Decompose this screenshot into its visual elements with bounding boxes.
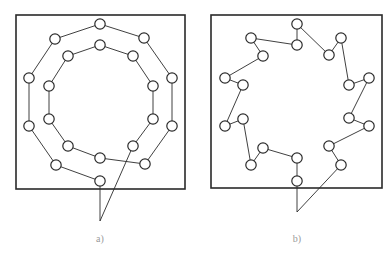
node-circle bbox=[148, 114, 158, 124]
node-circle bbox=[292, 176, 302, 186]
panel-b-caption: b) bbox=[282, 233, 312, 244]
node-circle bbox=[167, 73, 177, 83]
node-circle bbox=[24, 121, 34, 131]
figure-canvas bbox=[0, 0, 392, 256]
node-circle bbox=[220, 73, 230, 83]
node-circle bbox=[246, 33, 256, 43]
node-circle bbox=[24, 73, 34, 83]
node-circle bbox=[51, 160, 61, 170]
node-circle bbox=[139, 33, 149, 43]
node-circle bbox=[50, 34, 60, 44]
node-circle bbox=[364, 73, 374, 83]
node-circle bbox=[258, 143, 268, 153]
node-circle bbox=[344, 113, 354, 123]
node-circle bbox=[95, 176, 105, 186]
node-circle bbox=[238, 80, 248, 90]
panel-a-drawing bbox=[16, 15, 185, 221]
node-circle bbox=[292, 19, 302, 29]
node-circle bbox=[128, 51, 138, 61]
node-circle bbox=[140, 159, 150, 169]
node-circle bbox=[44, 81, 54, 91]
node-circle bbox=[63, 51, 73, 61]
node-circle bbox=[324, 141, 334, 151]
node-circle bbox=[95, 153, 105, 163]
node-circle bbox=[44, 114, 54, 124]
node-circle bbox=[364, 121, 374, 131]
node-circle bbox=[336, 160, 346, 170]
panel-b-drawing bbox=[211, 15, 382, 212]
node-circle bbox=[220, 121, 230, 131]
node-circle bbox=[292, 40, 302, 50]
node-circle bbox=[95, 40, 105, 50]
node-circle bbox=[167, 121, 177, 131]
node-circle bbox=[148, 81, 158, 91]
node-circle bbox=[336, 33, 346, 43]
node-circle bbox=[292, 153, 302, 163]
node-circle bbox=[238, 114, 248, 124]
panel-a-caption: a) bbox=[85, 233, 115, 244]
node-circle bbox=[128, 141, 138, 151]
node-circle bbox=[324, 50, 334, 60]
node-circle bbox=[258, 51, 268, 61]
node-circle bbox=[95, 19, 105, 29]
node-circle bbox=[344, 80, 354, 90]
node-circle bbox=[246, 160, 256, 170]
node-circle bbox=[63, 141, 73, 151]
